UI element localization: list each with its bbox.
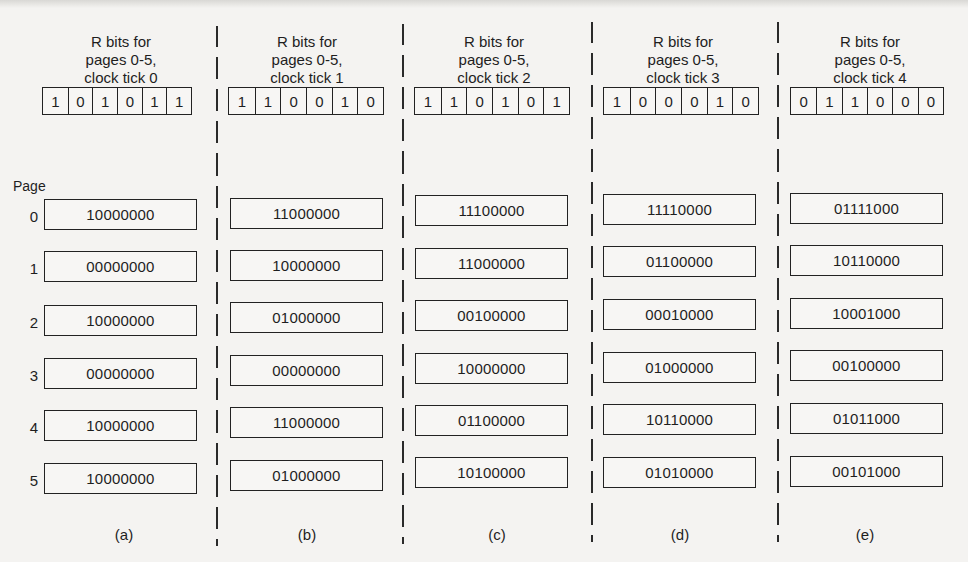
r-bits-register: 1 1 0 0 1 0 bbox=[228, 87, 384, 115]
r-bit: 0 bbox=[518, 88, 544, 114]
page-counter: 10110000 bbox=[790, 245, 943, 276]
page-counter: 10000000 bbox=[415, 353, 568, 384]
r-bit: 1 bbox=[543, 88, 569, 114]
panel-title: R bits for pages 0-5, clock tick 4 bbox=[790, 33, 950, 87]
page-counter: 10000000 bbox=[230, 250, 383, 281]
panel-label: (e) bbox=[790, 526, 940, 543]
title-line: R bits for bbox=[38, 33, 204, 51]
panel-title: R bits for pages 0-5, clock tick 2 bbox=[414, 33, 574, 87]
page-counter: 00000000 bbox=[44, 358, 197, 389]
page-counter: 10001000 bbox=[790, 298, 943, 329]
panel-title: R bits for pages 0-5, clock tick 0 bbox=[38, 33, 204, 87]
r-bit: 1 bbox=[142, 88, 167, 114]
title-line: R bits for bbox=[603, 33, 763, 51]
page-counter: 00100000 bbox=[790, 350, 943, 381]
page-counter: 01100000 bbox=[603, 246, 756, 277]
r-bit: 1 bbox=[492, 88, 518, 114]
title-line: pages 0-5, bbox=[38, 51, 204, 69]
r-bit: 0 bbox=[867, 88, 892, 114]
page-counter: 00000000 bbox=[230, 355, 383, 386]
panel-e: R bits for pages 0-5, clock tick 4 0 1 1… bbox=[790, 0, 950, 562]
panel-title: R bits for pages 0-5, clock tick 3 bbox=[603, 33, 763, 87]
page-counter: 11110000 bbox=[603, 194, 756, 225]
page-counter: 10000000 bbox=[44, 305, 197, 336]
panel-b: R bits for pages 0-5, clock tick 1 1 1 0… bbox=[228, 0, 386, 562]
r-bit: 0 bbox=[918, 88, 943, 114]
page-counter: 00101000 bbox=[790, 456, 943, 487]
panel-label: (b) bbox=[228, 526, 386, 543]
r-bits-register: 1 0 1 0 1 1 bbox=[42, 87, 192, 115]
page-counter: 00010000 bbox=[603, 299, 756, 330]
panel-divider bbox=[591, 22, 593, 542]
page-counter: 10100000 bbox=[415, 457, 568, 488]
page-counter: 00000000 bbox=[44, 251, 197, 282]
title-line: pages 0-5, bbox=[603, 51, 763, 69]
page-counter: 01000000 bbox=[603, 352, 756, 383]
title-line: clock tick 2 bbox=[414, 69, 574, 87]
r-bits-register: 1 0 0 0 1 0 bbox=[603, 87, 759, 115]
panel-label: (d) bbox=[603, 526, 757, 543]
r-bit: 1 bbox=[166, 88, 191, 114]
r-bit: 0 bbox=[466, 88, 492, 114]
page-counter: 10000000 bbox=[44, 463, 197, 494]
r-bit: 1 bbox=[415, 88, 441, 114]
title-line: pages 0-5, bbox=[414, 51, 574, 69]
r-bit: 0 bbox=[68, 88, 93, 114]
panel-title: R bits for pages 0-5, clock tick 1 bbox=[228, 33, 386, 87]
panel-divider bbox=[402, 24, 404, 544]
page-counter: 11100000 bbox=[415, 195, 568, 226]
page-counter: 01111000 bbox=[790, 193, 943, 224]
r-bit: 0 bbox=[280, 88, 306, 114]
r-bit: 1 bbox=[92, 88, 117, 114]
r-bit: 1 bbox=[441, 88, 467, 114]
panel-divider bbox=[777, 22, 779, 542]
title-line: R bits for bbox=[414, 33, 574, 51]
r-bit: 0 bbox=[681, 88, 707, 114]
page-counter: 00100000 bbox=[415, 300, 568, 331]
r-bit: 1 bbox=[332, 88, 358, 114]
page-counter: 11000000 bbox=[230, 407, 383, 438]
panel-label: (a) bbox=[38, 526, 210, 543]
r-bits-register: 1 1 0 1 0 1 bbox=[414, 87, 570, 115]
page-counter: 10000000 bbox=[44, 410, 197, 441]
panel-d: R bits for pages 0-5, clock tick 3 1 0 0… bbox=[603, 0, 763, 562]
page-counter: 11000000 bbox=[230, 198, 383, 229]
title-line: clock tick 4 bbox=[790, 69, 950, 87]
title-line: clock tick 0 bbox=[38, 69, 204, 87]
page-counter: 11000000 bbox=[415, 248, 568, 279]
page-counter: 01100000 bbox=[415, 405, 568, 436]
panel-label: (c) bbox=[414, 526, 580, 543]
title-line: clock tick 1 bbox=[228, 69, 386, 87]
title-line: pages 0-5, bbox=[228, 51, 386, 69]
r-bit: 0 bbox=[732, 88, 758, 114]
page-counter: 01011000 bbox=[790, 403, 943, 434]
title-line: clock tick 3 bbox=[603, 69, 763, 87]
r-bit: 1 bbox=[842, 88, 867, 114]
page-counter: 01000000 bbox=[230, 460, 383, 491]
r-bit: 0 bbox=[655, 88, 681, 114]
page-counter: 01010000 bbox=[603, 457, 756, 488]
r-bit: 0 bbox=[357, 88, 383, 114]
r-bit: 1 bbox=[43, 88, 68, 114]
r-bits-register: 0 1 1 0 0 0 bbox=[790, 87, 944, 115]
panel-divider bbox=[216, 26, 218, 546]
page-counter: 10110000 bbox=[603, 404, 756, 435]
panel-a: R bits for pages 0-5, clock tick 0 1 0 1… bbox=[38, 0, 204, 562]
r-bit: 1 bbox=[604, 88, 630, 114]
panel-c: R bits for pages 0-5, clock tick 2 1 1 0… bbox=[414, 0, 574, 562]
r-bit: 1 bbox=[229, 88, 255, 114]
title-line: pages 0-5, bbox=[790, 51, 950, 69]
page-counter: 10000000 bbox=[44, 199, 197, 230]
r-bit: 1 bbox=[255, 88, 281, 114]
r-bit: 1 bbox=[816, 88, 841, 114]
r-bit: 0 bbox=[892, 88, 917, 114]
r-bit: 0 bbox=[117, 88, 142, 114]
title-line: R bits for bbox=[228, 33, 386, 51]
r-bit: 0 bbox=[306, 88, 332, 114]
r-bit: 0 bbox=[791, 88, 816, 114]
r-bit: 1 bbox=[707, 88, 733, 114]
page-counter: 01000000 bbox=[230, 302, 383, 333]
r-bit: 0 bbox=[630, 88, 656, 114]
title-line: R bits for bbox=[790, 33, 950, 51]
